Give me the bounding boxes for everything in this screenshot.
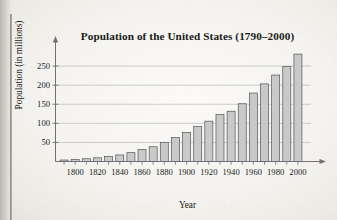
x-tick-label: 1900 <box>178 167 195 177</box>
bar <box>171 137 179 161</box>
bar <box>127 153 135 162</box>
bar <box>249 93 257 161</box>
x-tick-label: 1940 <box>223 167 240 177</box>
x-tick-label: 1880 <box>156 167 173 177</box>
y-tick-label: 250 <box>37 61 50 71</box>
y-tick-label: 50 <box>41 137 50 147</box>
bar <box>283 67 291 162</box>
bar <box>216 115 224 162</box>
plot-area: 50100150200250 1800182018401860188019001… <box>0 0 337 220</box>
x-axis-arrowhead <box>320 159 327 164</box>
x-tick-label: 1920 <box>200 167 217 177</box>
bar <box>183 132 191 161</box>
bar <box>227 111 235 161</box>
x-ticks-group: 1800182018401860188019001920194019601980… <box>64 162 306 177</box>
y-tick-label: 200 <box>37 80 50 90</box>
bar <box>149 147 157 162</box>
bar <box>105 157 113 162</box>
x-tick-label: 1960 <box>245 167 262 177</box>
bar <box>160 142 168 161</box>
bar <box>261 84 269 162</box>
bar <box>116 155 124 162</box>
bar <box>194 126 202 161</box>
bar <box>272 75 280 161</box>
population-bar-chart: Population of the United States (1790–20… <box>0 0 337 220</box>
x-tick-label: 1800 <box>67 167 84 177</box>
x-tick-label: 1860 <box>133 167 150 177</box>
y-axis-arrowhead <box>53 36 58 43</box>
x-tick-label: 2000 <box>289 167 306 177</box>
x-tick-label: 1980 <box>267 167 284 177</box>
bar <box>138 150 146 162</box>
y-tick-label: 100 <box>37 118 50 128</box>
bars-group <box>60 54 302 161</box>
x-tick-label: 1820 <box>89 167 106 177</box>
x-tick-label: 1840 <box>111 167 128 177</box>
bar <box>205 121 213 161</box>
bar <box>238 104 246 162</box>
bar <box>294 54 302 161</box>
bar <box>93 158 101 162</box>
y-tick-label: 150 <box>37 99 50 109</box>
